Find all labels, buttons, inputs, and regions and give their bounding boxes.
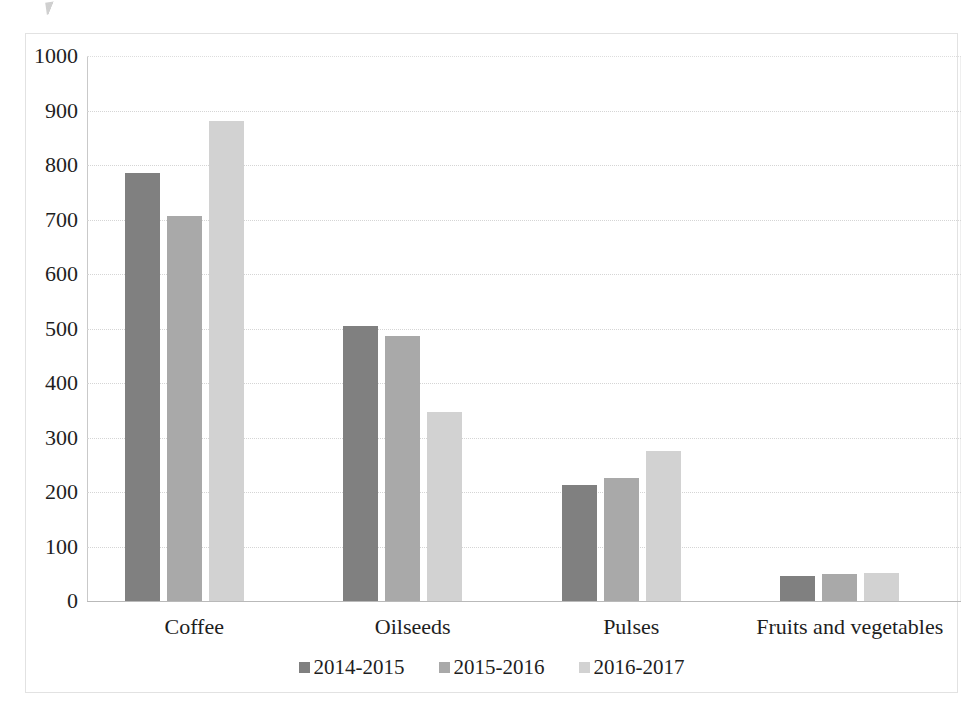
- legend-swatch-icon: [579, 662, 590, 673]
- x-axis-category-label: Pulses: [603, 616, 659, 638]
- legend-item[interactable]: 2014-2015: [299, 657, 405, 678]
- x-axis-labels: CoffeeOilseedsPulsesFruits and vegetable…: [87, 616, 961, 650]
- legend-swatch-icon: [299, 662, 310, 673]
- y-axis-tick-label: 500: [45, 318, 78, 340]
- y-axis-tick-label: 200: [45, 481, 78, 503]
- legend-item[interactable]: 2015-2016: [439, 657, 545, 678]
- bar[interactable]: [167, 216, 202, 601]
- legend-label: 2014-2015: [314, 657, 405, 678]
- y-axis-tick-label: 600: [45, 263, 78, 285]
- legend-swatch-icon: [439, 662, 450, 673]
- plot-wrapper: 10009008007006005004003002001000: [87, 56, 961, 601]
- legend-item[interactable]: 2016-2017: [579, 657, 685, 678]
- bar[interactable]: [604, 478, 639, 601]
- legend-label: 2016-2017: [594, 657, 685, 678]
- bar[interactable]: [125, 173, 160, 601]
- bar[interactable]: [646, 451, 681, 601]
- bar[interactable]: [343, 326, 378, 601]
- bar[interactable]: [562, 485, 597, 601]
- bar[interactable]: [209, 121, 244, 601]
- x-axis-category-label: Coffee: [165, 616, 224, 638]
- bar[interactable]: [822, 574, 857, 601]
- bar[interactable]: [864, 573, 899, 601]
- legend-label: 2015-2016: [454, 657, 545, 678]
- bar[interactable]: [780, 576, 815, 601]
- y-axis-tick-label: 400: [45, 372, 78, 394]
- bars-layer: [87, 56, 961, 601]
- y-axis-tick-label: 1000: [34, 45, 78, 67]
- gridline: [87, 601, 961, 602]
- y-axis-tick-label: 700: [45, 209, 78, 231]
- y-axis-tick-label: 300: [45, 427, 78, 449]
- bar[interactable]: [427, 412, 462, 601]
- x-axis-category-label: Oilseeds: [375, 616, 451, 638]
- y-axis-tick-label: 100: [45, 536, 78, 558]
- chart-frame: 10009008007006005004003002001000 CoffeeO…: [25, 33, 958, 693]
- y-axis-tick-label: 800: [45, 154, 78, 176]
- chart-legend: 2014-20152015-20162016-2017: [26, 657, 957, 678]
- bar[interactable]: [385, 336, 420, 601]
- x-axis-category-label: Fruits and vegetables: [756, 616, 943, 638]
- y-axis-tick-label: 900: [45, 100, 78, 122]
- y-axis-tick-label: 0: [67, 590, 78, 612]
- scan-artifact: [45, 1, 57, 14]
